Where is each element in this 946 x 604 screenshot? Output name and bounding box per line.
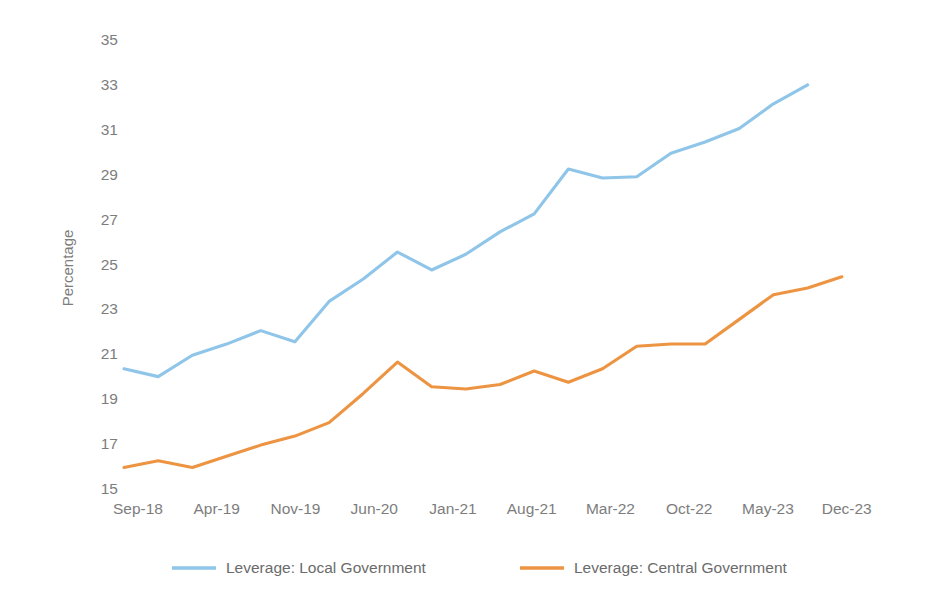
chart-legend: Leverage: Local GovernmentLeverage: Cent… [172, 559, 788, 576]
x-tick-label: Aug-21 [507, 500, 557, 517]
series-line-local-government [124, 85, 808, 377]
y-tick-label: 17 [101, 435, 118, 452]
x-axis-tick-labels: Sep-18Apr-19Nov-19Jun-20Jan-21Aug-21Mar-… [113, 500, 872, 517]
x-tick-label: Nov-19 [271, 500, 321, 517]
y-tick-label: 21 [101, 345, 118, 362]
legend-label[interactable]: Leverage: Central Government [574, 559, 788, 576]
series-line-central-government [124, 277, 842, 468]
x-tick-label: Apr-19 [193, 500, 240, 517]
y-tick-label: 29 [101, 166, 118, 183]
y-tick-label: 27 [101, 211, 118, 228]
x-tick-label: Dec-23 [822, 500, 872, 517]
y-tick-label: 15 [101, 480, 118, 497]
y-tick-label: 19 [101, 390, 118, 407]
legend-label[interactable]: Leverage: Local Government [226, 559, 427, 576]
x-tick-label: Sep-18 [113, 500, 163, 517]
series-lines [124, 85, 842, 468]
y-tick-label: 25 [101, 256, 118, 273]
x-tick-label: Jan-21 [429, 500, 476, 517]
x-tick-label: Mar-22 [586, 500, 635, 517]
x-tick-label: May-23 [742, 500, 794, 517]
chart-canvas: 1517192123252729313335 Sep-18Apr-19Nov-1… [0, 0, 946, 604]
y-tick-label: 33 [101, 76, 118, 93]
x-tick-label: Jun-20 [351, 500, 399, 517]
line-chart: 1517192123252729313335 Sep-18Apr-19Nov-1… [0, 0, 946, 604]
y-tick-label: 31 [101, 121, 118, 138]
y-axis-title: Percentage [59, 230, 76, 307]
y-axis-tick-labels: 1517192123252729313335 [101, 31, 118, 497]
x-tick-label: Oct-22 [666, 500, 713, 517]
y-tick-label: 23 [101, 300, 118, 317]
y-tick-label: 35 [101, 31, 118, 48]
